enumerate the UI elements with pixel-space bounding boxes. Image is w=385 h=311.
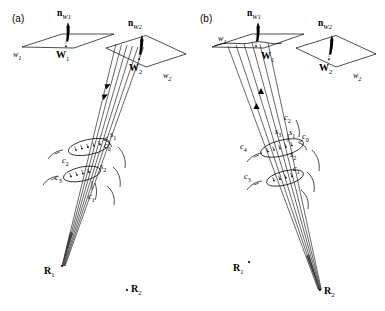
- panel-a-label-c0-subscript: 0: [108, 146, 111, 152]
- panel-b-label-s3: s3: [275, 127, 281, 138]
- panel-b-plane-w2: [296, 36, 376, 68]
- panel-b-point-w1-dot: [255, 46, 257, 48]
- panel-a-ray-direction-arrows: [102, 84, 111, 100]
- panel-b-plane-w1-label: w1: [218, 35, 227, 45]
- panel-a-normal-w1-subscript: W1: [62, 13, 71, 20]
- panel-a-normal-w2-subscript: W2: [133, 23, 142, 30]
- panel-a-point-w1-subscript: 1: [66, 55, 69, 62]
- panel-b-receiver-r1-dot: [248, 261, 250, 263]
- panel-a-receiver-r1-subscript: 1: [51, 271, 54, 278]
- panel-a-plane-w2: [106, 36, 186, 68]
- panel-a-plane-w2-label: w2: [163, 72, 172, 82]
- panel-b-label-s1-subscript: 1: [292, 133, 295, 139]
- panel-b-label-c0: c0: [302, 132, 309, 143]
- panel-b-label-c0-subscript: 0: [306, 137, 309, 143]
- panel-b-normal-w2-subscript: W2: [323, 23, 332, 30]
- panel-b-point-w2-dot: [328, 59, 330, 61]
- panel-b-label-s2-subscript: 2: [293, 155, 296, 161]
- panel-a-tag: (a): [12, 14, 24, 24]
- panel-a-point-w2-symbol: W: [129, 62, 139, 73]
- scattering-ray-diagram: (a) nW1 w1 W1 nW2 W2 w2 s1 c0 c2 s2 c3 c…: [0, 0, 385, 311]
- panel-a-receiver-r2-dot: [126, 289, 128, 291]
- panel-a-plane-w1-label: w1: [13, 51, 22, 61]
- panel-b-label-c1: c1: [293, 164, 300, 175]
- panel-a-label-c3-subscript: 3: [59, 178, 62, 184]
- panel-b-label-c3: c3: [244, 172, 251, 183]
- panel-a-label-c0: c0: [104, 141, 111, 152]
- panel-b-point-w1-label: W1: [261, 51, 274, 64]
- panel-b-point-w2-subscript: 2: [329, 68, 332, 75]
- panel-b-plane-w1-subscript: 1: [223, 38, 226, 45]
- panel-a-label-s1-subscript: 1: [113, 135, 116, 141]
- panel-b-receiver-r2-dot: [319, 289, 321, 291]
- panel-b-point-w1-subscript: 1: [271, 56, 274, 63]
- panel-a-receiver-r2-subscript: 2: [138, 289, 141, 296]
- panel-b-normal-w1-subscript: W1: [252, 13, 261, 20]
- panel-b-receiver-r2-subscript: 2: [331, 291, 334, 298]
- panel-b-label-c4-subscript: 4: [244, 147, 247, 153]
- panel-a-graphics: [22, 22, 186, 291]
- panel-b-normal-w2-arrow: [329, 35, 334, 59]
- panel-b-point-w1-symbol: W: [261, 50, 271, 61]
- panel-a-normal-w2-label: nW2: [128, 19, 142, 30]
- panel-b-ray-bundle: [228, 43, 321, 290]
- panel-b-receiver-r2-label: R2: [324, 286, 334, 299]
- panel-a-point-w1-dot: [65, 46, 67, 48]
- panel-a-normal-w2-arrow: [139, 35, 144, 59]
- panel-a-label-c3: c3: [55, 173, 62, 184]
- panel-b-label-c2-subscript: 2: [288, 118, 291, 124]
- panel-a-label-c1: c1: [88, 192, 95, 203]
- panel-b-receiver-r1-subscript: 1: [240, 268, 243, 275]
- panel-b-plane-w2-label: w2: [353, 72, 362, 82]
- panel-b-label-c2: c2: [284, 113, 291, 124]
- panel-a-receiver-r2-label: R2: [131, 284, 141, 297]
- panel-b-label-c3-subscript: 3: [248, 177, 251, 183]
- panel-a-receiver-r1-label: R1: [44, 266, 54, 279]
- panel-b-label-s3-subscript: 3: [278, 132, 281, 138]
- panel-b-receiver-r1-label: R1: [233, 263, 243, 276]
- panel-a-point-w1-label: W1: [56, 50, 69, 63]
- panel-b-label-c4: c4: [240, 142, 247, 153]
- panel-a-point-w2-label: W2: [129, 63, 142, 76]
- panel-b-plane-w2-subscript: 2: [358, 75, 361, 82]
- panel-b-point-w2-symbol: W: [319, 62, 329, 73]
- panel-b-label-s2: s2: [290, 150, 296, 161]
- panel-a-label-s1: s1: [110, 130, 116, 141]
- panel-a-point-w2-subscript: 2: [139, 68, 142, 75]
- panel-a-receiver-r1-dot: [61, 265, 63, 267]
- panel-a-plane-w1-subscript: 1: [18, 54, 21, 61]
- panel-a-plane-w2-subscript: 2: [168, 75, 171, 82]
- panel-b-tag: (b): [200, 14, 212, 24]
- panel-b-normal-w1-label: nW1: [247, 9, 261, 20]
- panel-b-label-s1: s1: [289, 128, 295, 139]
- panel-a-label-c2: c2: [62, 156, 69, 167]
- panel-a-label-c1-subscript: 1: [92, 197, 95, 203]
- panel-a-point-w1-symbol: W: [56, 49, 66, 60]
- panel-b-normal-w2-label: nW2: [318, 19, 332, 30]
- panel-a-label-c2-subscript: 2: [66, 161, 69, 167]
- panel-b-point-w2-label: W2: [319, 63, 332, 76]
- figure-vector-canvas: [0, 0, 385, 311]
- panel-a-normal-w1-label: nW1: [57, 9, 71, 20]
- panel-a-label-s2: s2: [100, 162, 106, 173]
- panel-a-label-s2-subscript: 2: [103, 167, 106, 173]
- panel-b-label-c1-subscript: 1: [297, 169, 300, 175]
